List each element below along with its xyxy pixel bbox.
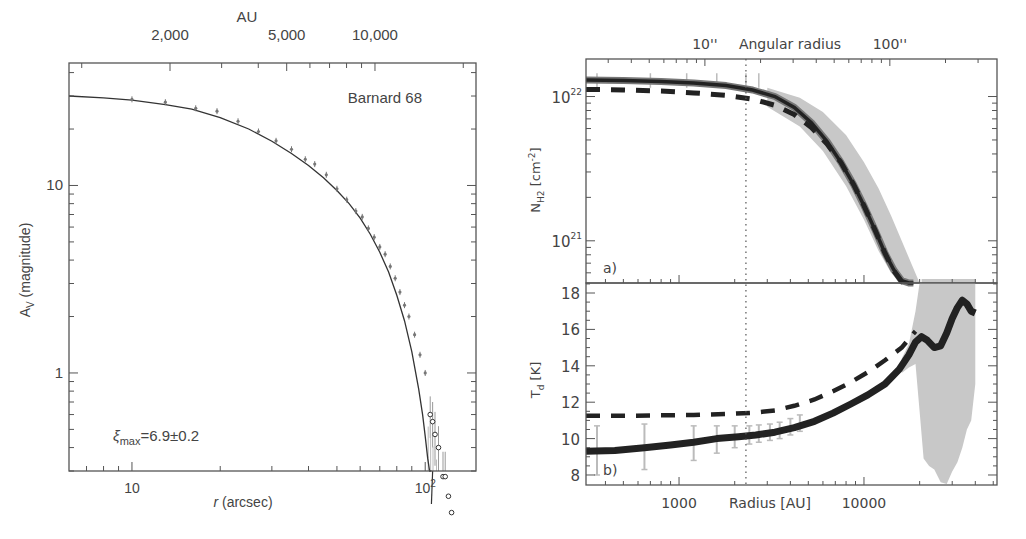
y-tick-label: 18 [561, 285, 580, 303]
left-data-points [130, 96, 454, 515]
left-ticks [69, 63, 476, 471]
left-error-bars [428, 396, 451, 471]
y-tick-label: 10 [561, 431, 580, 449]
x-tick-label: 102 [415, 478, 437, 496]
panel-label-a: a) [603, 260, 617, 276]
left-x-axis-label: r (arcsec) [213, 494, 272, 510]
left-y-axis-label: AV (magnitude) [17, 223, 36, 318]
y-tick-label: 14 [561, 358, 580, 376]
au-tick-label: 10,000 [352, 26, 398, 43]
angular-tick-label: 10'' [692, 36, 718, 52]
y-tick-label: 16 [561, 321, 580, 339]
xi-annotation: ξmax=6.9±0.2 [113, 427, 199, 447]
x-tick-label: 10000 [842, 495, 887, 511]
y-tick-label: 1 [55, 364, 63, 381]
right-plot: a) NH2 [cm-2] Angular radius b) Td [K] R… [527, 36, 997, 511]
right-top-panel: a) NH2 [cm-2] Angular radius [527, 36, 997, 283]
left-plot-title: Barnard 68 [348, 89, 422, 106]
y-tick-label: 8 [570, 467, 580, 485]
y-tick-label: 10 [46, 176, 63, 193]
temperature-error-band [594, 283, 975, 484]
au-tick-label: 2,000 [151, 26, 189, 43]
x-tick-label: 10 [124, 480, 140, 496]
right-bottom-panel: b) Td [K] Radius [AU] [528, 283, 997, 511]
angular-radius-title: Angular radius [739, 36, 841, 52]
y-tick-label: 1022 [551, 87, 582, 107]
left-plot-frame [69, 63, 476, 471]
y-tick-label: 12 [561, 394, 580, 412]
angular-tick-label: 100'' [873, 36, 907, 52]
au-tick-label: 5,000 [268, 26, 306, 43]
temperature-y-label: Td [K] [528, 362, 546, 399]
x-tick-label: 1000 [661, 495, 697, 511]
column-density-y-label: NH2 [cm-2] [527, 147, 546, 212]
left-top-axis-title: AU [237, 8, 258, 25]
panel-label-b: b) [603, 462, 617, 478]
y-tick-label: 1021 [551, 231, 582, 251]
figure: Barnard 68 ξmax=6.9±0.2 r (arcsec) AV (m… [0, 0, 1026, 539]
radius-x-label: Radius [AU] [729, 495, 811, 511]
left-plot: Barnard 68 ξmax=6.9±0.2 r (arcsec) AV (m… [17, 8, 476, 515]
